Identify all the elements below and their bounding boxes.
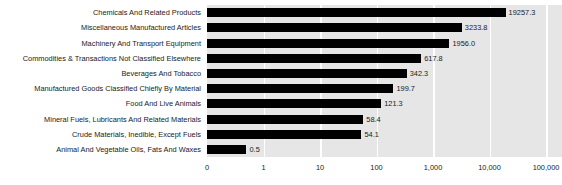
bar[interactable] (207, 54, 421, 63)
category-tick: Food And Live Animals (0, 96, 205, 111)
category-tick: Beverages And Tobacco (0, 66, 205, 81)
bar-value-label: 0.5 (249, 145, 259, 154)
x-tick-label: 100,000 (533, 163, 560, 172)
x-tick-label: 0 (205, 163, 209, 172)
bar[interactable] (207, 115, 363, 124)
category-label: Crude Materials, Inedible, Except Fuels (72, 130, 201, 139)
bar-row[interactable]: 3233.8 (207, 20, 562, 35)
category-label: Chemicals And Related Products (93, 8, 201, 17)
bar[interactable] (207, 84, 393, 93)
bar-chart: Chemicals And Related ProductsMiscellane… (0, 0, 562, 185)
category-label: Manufactured Goods Classified Chiefly By… (34, 84, 201, 93)
x-tick-label: 10,000 (478, 163, 501, 172)
category-tick: Commodities & Transactions Not Classifie… (0, 51, 205, 66)
x-tick-label: 10 (316, 163, 324, 172)
bars-layer: 19257.33233.81956.0617.8342.3199.7121.35… (207, 5, 562, 157)
bar-row[interactable]: 1956.0 (207, 35, 562, 50)
plot-area: 19257.33233.81956.0617.8342.3199.7121.35… (207, 5, 562, 157)
bar-value-label: 19257.3 (509, 8, 536, 17)
bar[interactable] (207, 145, 246, 154)
bar-row[interactable]: 58.4 (207, 111, 562, 126)
category-tick: Crude Materials, Inedible, Except Fuels (0, 127, 205, 142)
category-tick: Miscellaneous Manufactured Articles (0, 20, 205, 35)
bar-value-label: 342.3 (410, 69, 429, 78)
bar-row[interactable]: 342.3 (207, 66, 562, 81)
category-label: Food And Live Animals (126, 99, 201, 108)
bar[interactable] (207, 99, 381, 108)
x-tick-label: 1,000 (424, 163, 443, 172)
bar-value-label: 617.8 (424, 54, 443, 63)
category-label: Mineral Fuels, Lubricants And Related Ma… (44, 115, 201, 124)
category-label: Beverages And Tobacco (121, 69, 201, 78)
bar[interactable] (207, 23, 462, 32)
bar-value-label: 54.1 (364, 130, 378, 139)
bar-row[interactable]: 617.8 (207, 51, 562, 66)
category-label: Miscellaneous Manufactured Articles (81, 23, 201, 32)
category-axis: Chemicals And Related ProductsMiscellane… (0, 5, 205, 157)
bar-value-label: 1956.0 (452, 39, 475, 48)
x-tick-label: 100 (370, 163, 382, 172)
category-label: Commodities & Transactions Not Classifie… (23, 54, 201, 63)
x-axis: 01101001,00010,000100,000 (207, 157, 562, 177)
category-label: Machinery And Transport Equipment (81, 39, 201, 48)
bar-value-label: 121.3 (384, 99, 403, 108)
category-tick: Mineral Fuels, Lubricants And Related Ma… (0, 111, 205, 126)
category-tick: Machinery And Transport Equipment (0, 35, 205, 50)
category-tick: Animal And Vegetable Oils, Fats And Waxe… (0, 142, 205, 157)
category-tick: Manufactured Goods Classified Chiefly By… (0, 81, 205, 96)
bar-row[interactable]: 19257.3 (207, 5, 562, 20)
bar-row[interactable]: 0.5 (207, 142, 562, 157)
bar[interactable] (207, 39, 449, 48)
bar-row[interactable]: 54.1 (207, 127, 562, 142)
bar-row[interactable]: 121.3 (207, 96, 562, 111)
bar[interactable] (207, 130, 361, 139)
bar-row[interactable]: 199.7 (207, 81, 562, 96)
bar[interactable] (207, 69, 407, 78)
bar-value-label: 58.4 (366, 115, 380, 124)
category-label: Animal And Vegetable Oils, Fats And Waxe… (56, 145, 201, 154)
x-tick-label: 1 (261, 163, 265, 172)
bar-value-label: 3233.8 (465, 23, 488, 32)
category-tick: Chemicals And Related Products (0, 5, 205, 20)
bar[interactable] (207, 8, 506, 17)
bar-value-label: 199.7 (396, 84, 415, 93)
